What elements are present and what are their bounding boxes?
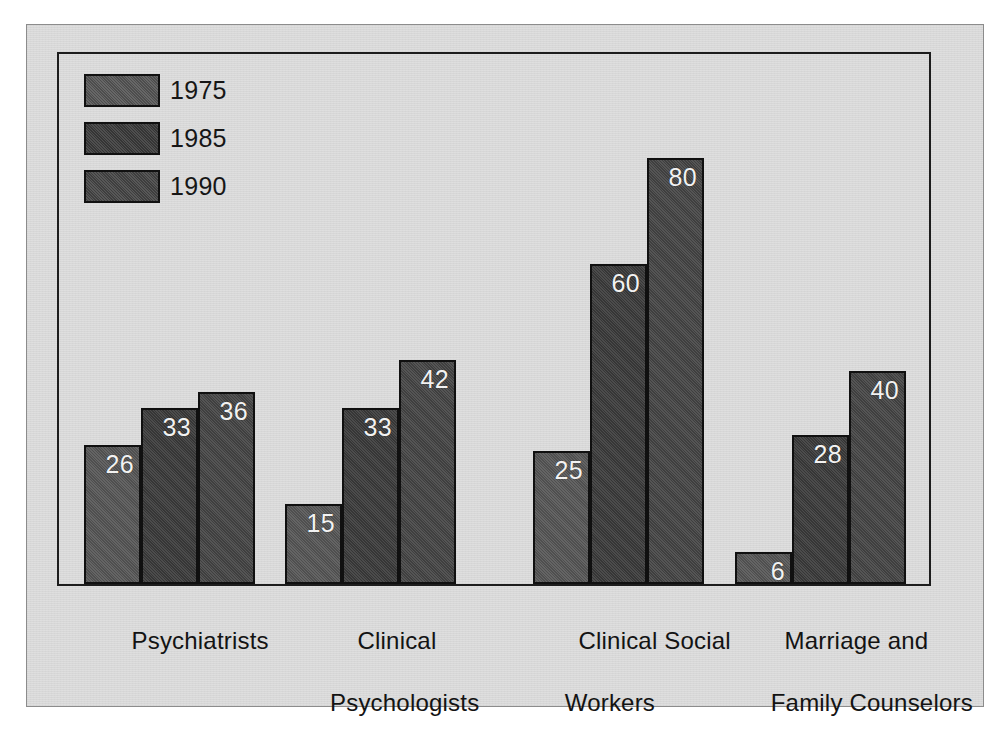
legend-item-1990[interactable]: 1990 bbox=[84, 170, 314, 218]
bar-value-label: 33 bbox=[163, 412, 191, 442]
category-line-1: Clinical Social bbox=[578, 627, 730, 654]
category-label-psychiatrists: Psychiatrists bbox=[104, 594, 269, 731]
category-line-1: Clinical bbox=[357, 627, 436, 654]
category-line-1: Marriage and bbox=[784, 627, 928, 654]
bar-clinical-psychologists-1985[interactable]: 33 bbox=[342, 408, 399, 584]
chart-legend: 1975 1985 1990 bbox=[84, 74, 314, 218]
bar-marriage-and-family-counselors-1985[interactable]: 28 bbox=[792, 435, 849, 584]
category-label-marriage-family-counselors: Marriage and Family Counselors bbox=[757, 594, 973, 731]
bar-value-label: 26 bbox=[106, 449, 134, 479]
bar-halftone-texture bbox=[592, 266, 645, 582]
bar-clinical-social-workers-1990[interactable]: 80 bbox=[647, 158, 704, 584]
legend-item-1975[interactable]: 1975 bbox=[84, 74, 314, 122]
bar-value-label: 80 bbox=[669, 162, 697, 192]
bar-clinical-psychologists-1990[interactable]: 42 bbox=[399, 360, 456, 584]
category-line-1: Psychiatrists bbox=[131, 627, 268, 654]
category-label-clinical-psychologists: Clinical Psychologists bbox=[330, 594, 479, 731]
bar-clinical-social-workers-1975[interactable]: 25 bbox=[533, 451, 590, 584]
bar-marriage-and-family-counselors-1990[interactable]: 40 bbox=[849, 371, 906, 584]
bar-halftone-texture bbox=[401, 362, 454, 582]
bar-psychiatrists-1990[interactable]: 36 bbox=[198, 392, 255, 584]
category-line-2: Family Counselors bbox=[757, 687, 973, 718]
legend-item-1985[interactable]: 1985 bbox=[84, 122, 314, 170]
bar-value-label: 40 bbox=[871, 375, 899, 405]
legend-label-1975: 1975 bbox=[170, 75, 227, 105]
bar-value-label: 60 bbox=[612, 268, 640, 298]
bar-clinical-social-workers-1985[interactable]: 60 bbox=[590, 264, 647, 584]
bar-value-label: 15 bbox=[307, 508, 335, 538]
bar-value-label: 33 bbox=[364, 412, 392, 442]
bar-halftone-texture bbox=[649, 160, 702, 582]
legend-swatch-1985 bbox=[84, 122, 160, 155]
bar-marriage-and-family-counselors-1975[interactable]: 6 bbox=[735, 552, 792, 584]
bar-value-label: 28 bbox=[814, 439, 842, 469]
bar-value-label: 25 bbox=[555, 455, 583, 485]
bar-psychiatrists-1975[interactable]: 26 bbox=[84, 445, 141, 584]
category-label-clinical-social-workers: Clinical Social Workers bbox=[551, 594, 731, 731]
bar-psychiatrists-1985[interactable]: 33 bbox=[141, 408, 198, 584]
category-line-2: Psychologists bbox=[330, 687, 479, 718]
bar-value-label: 42 bbox=[421, 364, 449, 394]
legend-label-1990: 1990 bbox=[170, 171, 227, 201]
legend-swatch-1990 bbox=[84, 170, 160, 203]
bar-value-label: 6 bbox=[771, 556, 785, 584]
legend-swatch-1975 bbox=[84, 74, 160, 107]
category-line-2: Workers bbox=[551, 687, 731, 718]
legend-label-1985: 1985 bbox=[170, 123, 227, 153]
bar-clinical-psychologists-1975[interactable]: 15 bbox=[285, 504, 342, 584]
bar-value-label: 36 bbox=[220, 396, 248, 426]
scanned-page: 26333615334225608062840 1975 1985 1990 P… bbox=[0, 0, 1006, 731]
